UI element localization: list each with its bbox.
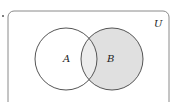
set-a-label: A xyxy=(62,53,70,64)
set-b-label: B xyxy=(106,53,114,64)
universe-label: U xyxy=(154,18,163,29)
venn-diagram: A B U xyxy=(0,0,172,102)
